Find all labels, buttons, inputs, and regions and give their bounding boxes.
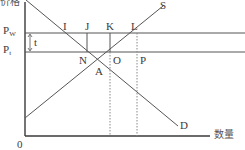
y-axis-label: 价格: [0, 0, 20, 7]
world-price-subscript: W: [9, 30, 16, 38]
demand-curve: [26, 0, 178, 126]
point-a-label: A: [95, 66, 103, 77]
world-price-label: PW: [3, 25, 16, 38]
demand-curve-label: D: [180, 120, 188, 131]
point-j-label: J: [85, 21, 89, 32]
supply-curve-label: S: [160, 0, 166, 11]
tariff-diagram: 价格 数量 0 PW Pt t I J K L N O P A S D: [0, 0, 245, 150]
point-l-label: L: [131, 21, 138, 32]
point-i-label: I: [63, 21, 67, 32]
tariff-gap-label: t: [34, 37, 37, 48]
x-axis-label: 数量: [214, 130, 234, 140]
tariff-price-label: Pt: [3, 44, 11, 57]
tariff-price-subscript: t: [9, 49, 11, 57]
point-k-label: K: [106, 21, 114, 32]
diagram-canvas: [0, 0, 245, 150]
origin-label: 0: [17, 139, 23, 150]
point-o-label: O: [113, 55, 121, 66]
point-p-label: P: [140, 55, 146, 66]
point-n-label: N: [79, 55, 87, 66]
